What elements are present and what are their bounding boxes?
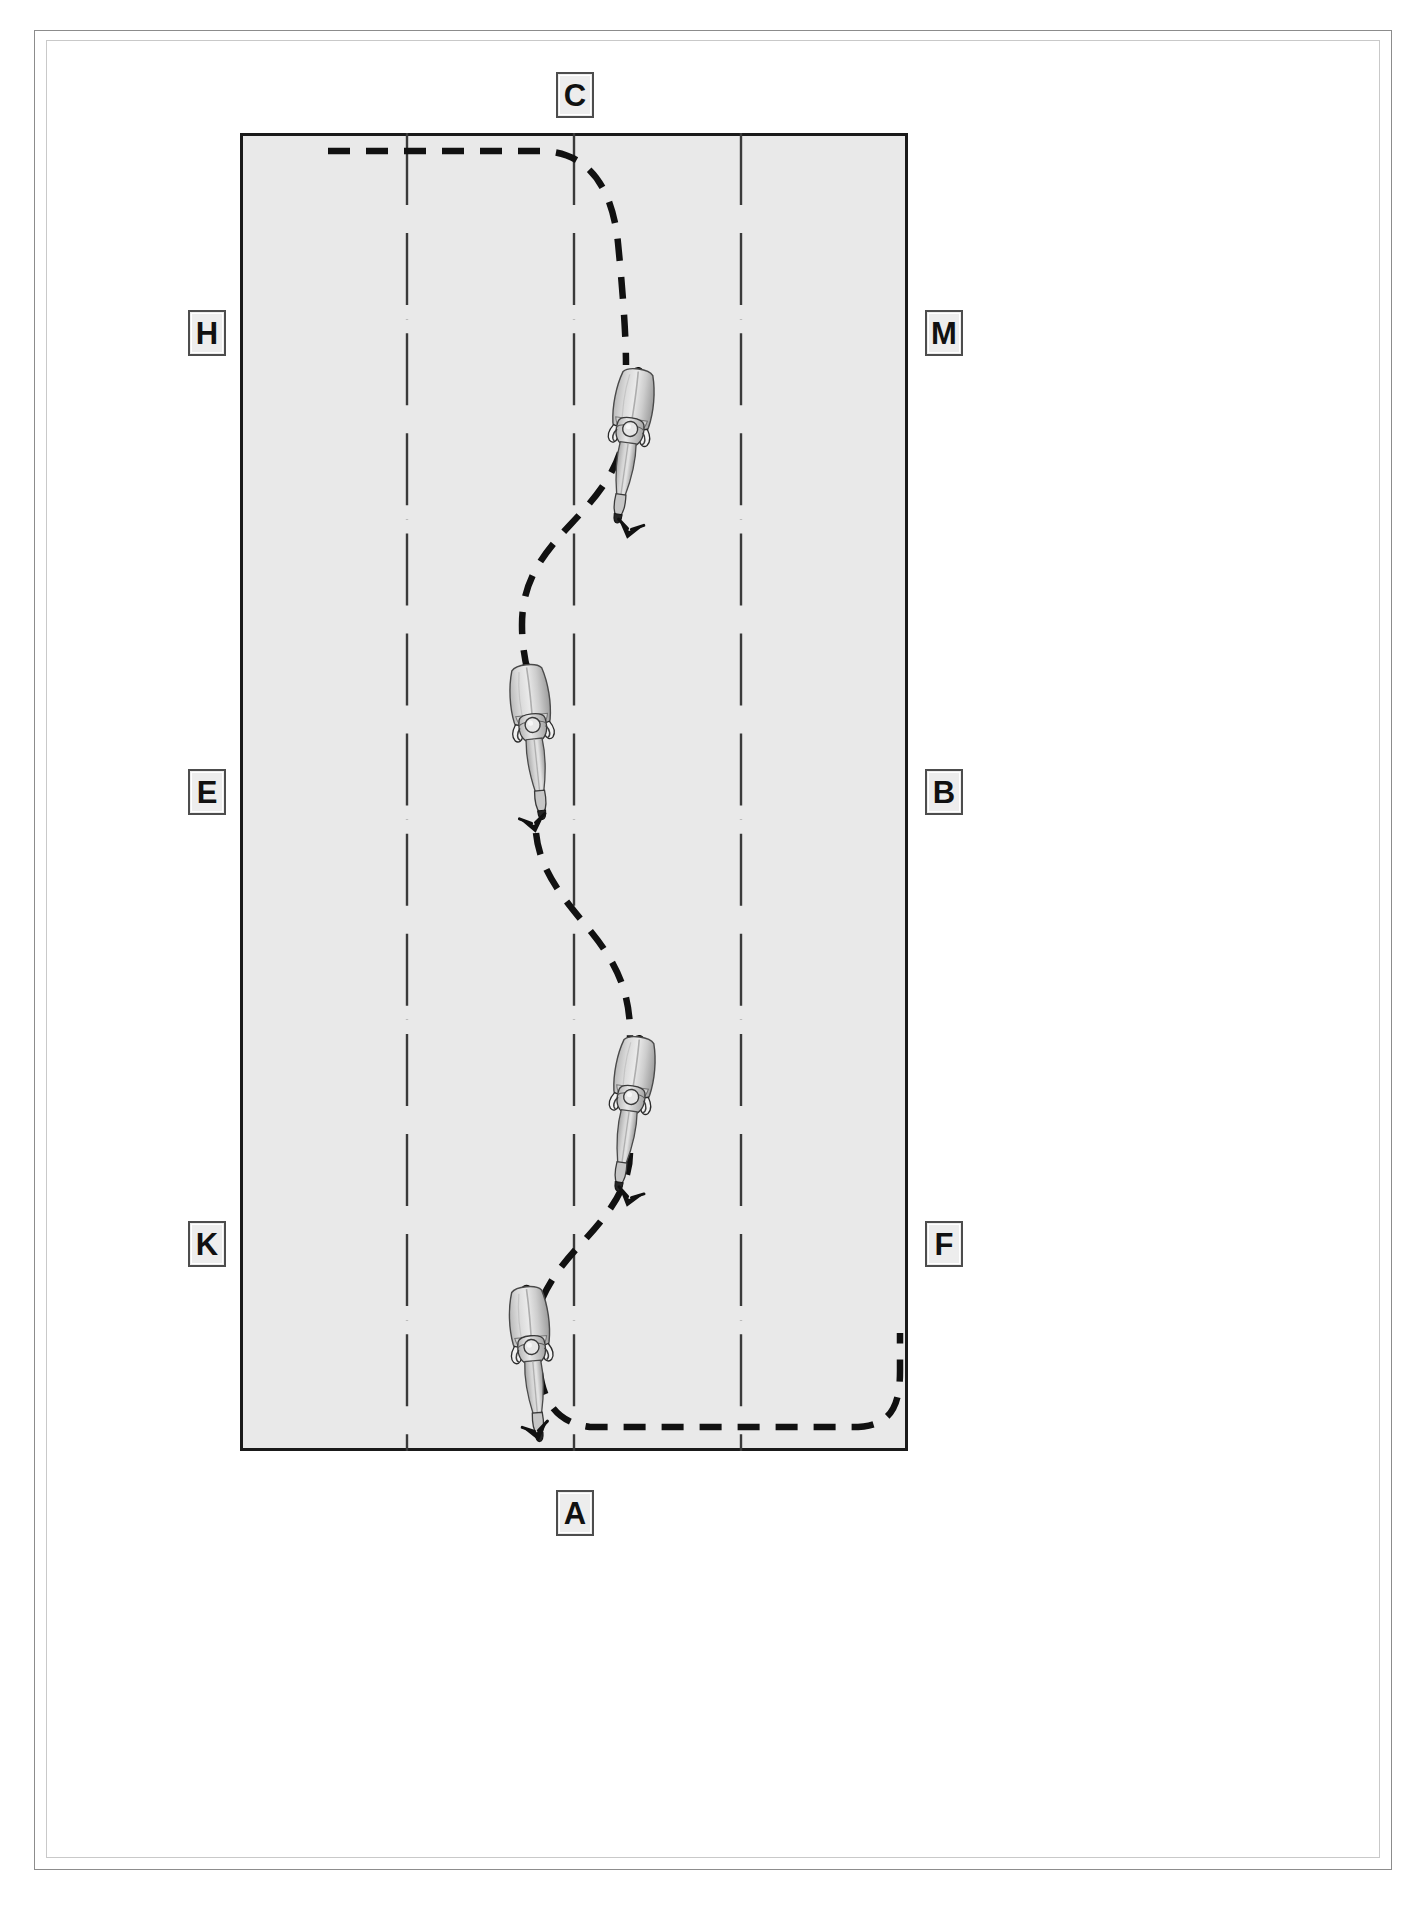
arena-container — [240, 133, 908, 1451]
direction-arrow-1 — [614, 519, 643, 542]
arena-marker-f: F — [925, 1221, 963, 1267]
path-loop-3-4 — [534, 1153, 630, 1333]
direction-arrow-4 — [522, 1421, 551, 1444]
arena-marker-a-label: A — [564, 1498, 586, 1529]
arena-marker-k: K — [188, 1221, 226, 1267]
arena-marker-k-label: K — [196, 1229, 218, 1260]
serpentine-path-group — [328, 151, 900, 1427]
arena-marker-a: A — [556, 1490, 594, 1536]
path-exit-segment — [540, 1333, 900, 1427]
horse-rider-4 — [505, 1283, 560, 1443]
arena-marker-e-label: E — [197, 777, 218, 808]
direction-arrow-2 — [519, 813, 548, 835]
path-entry-segment — [328, 151, 626, 365]
horse-rider-2 — [506, 661, 564, 821]
horse-rider-1 — [596, 365, 659, 526]
arena-marker-h-label: H — [196, 318, 218, 349]
arena-graphics — [240, 133, 908, 1451]
path-loop-2-3 — [536, 833, 630, 1081]
arena-marker-c-label: C — [564, 80, 586, 111]
arena-marker-h: H — [188, 310, 226, 356]
arena-marker-c: C — [556, 72, 594, 118]
diagram-page: C H M E B K F A — [0, 0, 1428, 1914]
arena-marker-m: M — [925, 310, 963, 356]
arena-marker-m-label: M — [931, 318, 957, 349]
arena-marker-b-label: B — [933, 777, 955, 808]
arena-marker-f-label: F — [935, 1229, 954, 1260]
arena-marker-b: B — [925, 769, 963, 815]
arena-marker-e: E — [188, 769, 226, 815]
